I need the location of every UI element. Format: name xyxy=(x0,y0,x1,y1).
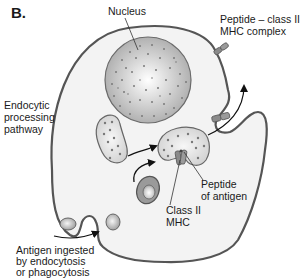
class-ii-mhc-molecule xyxy=(175,149,187,165)
ingested-antigen xyxy=(106,214,120,230)
pathway-label-line2: processing xyxy=(4,112,55,123)
mhc-label-line2: MHC xyxy=(166,217,190,228)
internalized-antigen xyxy=(143,185,155,199)
antigen-label-line3: or phagocytosis xyxy=(16,267,90,278)
pathway-label-line3: pathway xyxy=(4,124,43,135)
pathway-label-line1: Endocytic xyxy=(4,100,50,111)
panel-label: B. xyxy=(11,7,26,18)
complex-label-line1: Peptide – class II xyxy=(220,14,300,25)
peptide-label-line2: of antigen xyxy=(201,191,247,202)
nucleus xyxy=(105,37,191,123)
peptide-label-line1: Peptide xyxy=(201,179,237,190)
complex-label-line2: MHC complex xyxy=(220,26,286,37)
mhc-label-line1: Class II xyxy=(166,205,201,216)
extracellular-antigen xyxy=(60,218,76,230)
nucleus-label: Nucleus xyxy=(108,6,146,17)
